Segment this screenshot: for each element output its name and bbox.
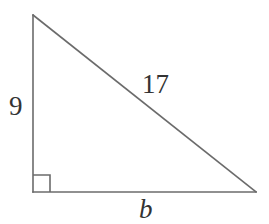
right-triangle-figure: 9 17 b	[0, 0, 269, 224]
right-angle-square-icon	[33, 175, 50, 192]
hypotenuse-label: 17	[142, 71, 169, 98]
hypotenuse-line	[33, 15, 256, 192]
horizontal-leg-label: b	[139, 196, 153, 223]
triangle-drawing	[0, 0, 269, 224]
vertical-leg-label: 9	[9, 93, 23, 120]
